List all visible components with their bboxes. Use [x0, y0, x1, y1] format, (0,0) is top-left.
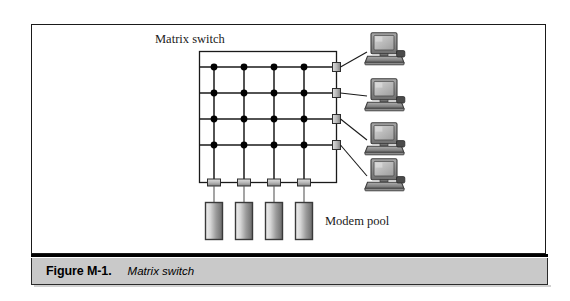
- crosspoint-dot: [301, 64, 308, 71]
- matrix-switch-diagram-svg: [31, 24, 546, 254]
- modem-pool-units: [206, 203, 313, 240]
- crosspoint-dot: [301, 142, 308, 149]
- caption-divider: [31, 254, 548, 257]
- right-port-block: [333, 63, 341, 72]
- crosspoint-dot: [271, 90, 278, 97]
- crosspoint-dot: [211, 64, 218, 71]
- crosspoint-dot: [241, 116, 248, 123]
- crosspoint-dot: [241, 142, 248, 149]
- crosspoint-dot: [271, 116, 278, 123]
- bottom-port-block: [298, 179, 311, 186]
- figure-caption-bar: Figure M-1. Matrix switch: [31, 258, 548, 285]
- modem-unit: [296, 203, 313, 240]
- computer-icon: [365, 159, 405, 191]
- terminal-link-lines: [341, 52, 368, 176]
- computer-icon: [365, 123, 405, 155]
- matrix-switch-box: [200, 52, 337, 183]
- modem-unit: [266, 203, 283, 240]
- right-port-block: [333, 89, 341, 98]
- crosspoint-dot: [211, 90, 218, 97]
- figure-number: Figure M-1.: [46, 264, 112, 278]
- computer-icon: [365, 33, 405, 65]
- right-port-block: [333, 141, 341, 150]
- crosspoint-dot: [301, 90, 308, 97]
- crosspoint-dot: [211, 116, 218, 123]
- crosspoint-dot: [241, 64, 248, 71]
- figure-caption-title: Matrix switch: [128, 265, 194, 277]
- bottom-port-block: [238, 179, 251, 186]
- figure-container: Matrix switch Modem pool Figure M-1. Mat…: [0, 0, 570, 301]
- terminal-link-line: [341, 119, 368, 140]
- crosspoint-dot: [271, 64, 278, 71]
- modem-unit: [206, 203, 223, 240]
- terminal-computers: [365, 33, 405, 191]
- crosspoint-dot: [241, 90, 248, 97]
- crosspoint-dot: [271, 142, 278, 149]
- matrix-switch-label: Matrix switch: [155, 32, 225, 47]
- terminal-link-line: [341, 52, 368, 67]
- computer-icon: [365, 79, 405, 111]
- bottom-port-block: [268, 179, 281, 186]
- modem-unit: [236, 203, 253, 240]
- terminal-link-line: [341, 93, 368, 96]
- right-port-block: [333, 115, 341, 124]
- crosspoint-dot: [211, 142, 218, 149]
- modem-pool-label: Modem pool: [325, 214, 389, 229]
- terminal-link-line: [341, 145, 368, 176]
- bottom-port-block: [208, 179, 221, 186]
- diagram-artwork: Matrix switch Modem pool: [31, 24, 546, 254]
- modem-link-lines: [214, 186, 304, 202]
- crosspoint-dot: [301, 116, 308, 123]
